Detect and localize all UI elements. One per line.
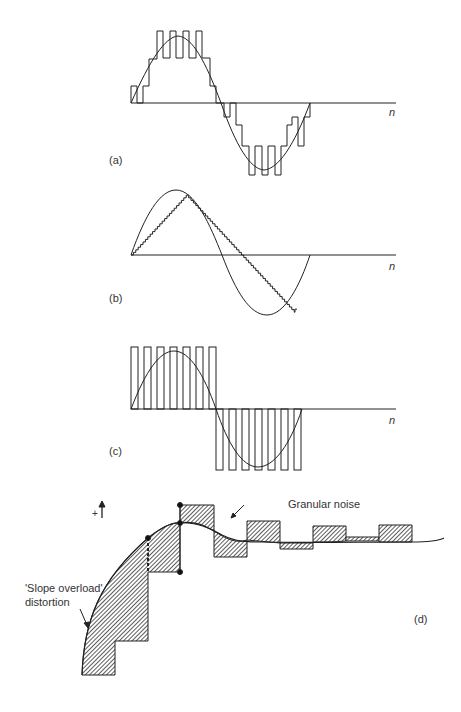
granular-noise-annotation: Granular noise	[288, 498, 360, 510]
negative-pulse	[255, 409, 262, 470]
panel-a	[131, 31, 396, 175]
sample-dot	[178, 521, 183, 526]
staircase-b	[131, 195, 297, 312]
panel-c-label: (c)	[109, 445, 122, 457]
slope-overload-annotation-2: distortion	[25, 596, 70, 608]
sample-dot	[178, 570, 183, 575]
negative-pulse	[229, 409, 236, 470]
positive-pulse	[170, 347, 177, 409]
panel-d-label: (d)	[414, 613, 427, 625]
panel-b	[131, 190, 396, 315]
panel-d	[80, 501, 444, 675]
granular-region-1	[180, 505, 214, 531]
axis-label-a: n	[389, 106, 395, 118]
panel-a-label: (a)	[109, 154, 122, 166]
sine-b	[131, 190, 310, 315]
axis-label-b: n	[389, 260, 395, 272]
sample-dot	[178, 503, 183, 508]
panel-b-label: (b)	[109, 292, 122, 304]
panel-c	[131, 347, 396, 470]
negative-pulse	[294, 409, 301, 470]
sample-dot	[146, 536, 151, 541]
positive-pulse	[157, 347, 164, 409]
positive-pulse	[196, 347, 203, 409]
negative-pulse	[281, 409, 288, 470]
negative-pulse	[242, 409, 249, 470]
granular-region-7	[379, 525, 412, 542]
granular-region-4	[280, 543, 313, 549]
slope-overload-annotation: 'Slope overload'	[25, 582, 103, 594]
granular-region-5	[313, 526, 346, 542]
granular-region-3	[247, 521, 280, 543]
slope-overload-region	[82, 523, 180, 675]
negative-pulse	[268, 409, 275, 470]
granular-region-2	[214, 531, 247, 557]
axis-label-c: n	[389, 414, 395, 426]
plus-sign: +	[92, 508, 98, 519]
granular-region-6	[346, 537, 379, 541]
